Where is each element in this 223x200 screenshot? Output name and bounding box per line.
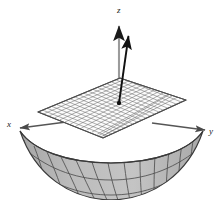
x-axis-label: x [6,119,11,129]
y-axis-label: y [208,126,213,136]
diagram-svg: z [0,0,223,200]
figure-canvas: z [0,0,223,200]
tangency-point [117,101,121,105]
z-axis-label: z [116,5,121,15]
